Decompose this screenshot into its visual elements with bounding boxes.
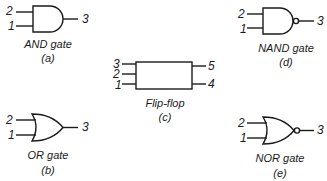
and-output-label: 3 xyxy=(82,13,89,25)
flipflop-output-5-label: 5 xyxy=(208,60,215,72)
and-gate-symbol xyxy=(16,6,78,32)
nand-gate-caption: NAND gate xyxy=(246,42,326,54)
or-output-label: 3 xyxy=(82,121,89,133)
nand-gate-symbol xyxy=(247,8,314,34)
flipflop-caption: Flip-flop xyxy=(125,97,205,109)
nor-gate-caption: NOR gate xyxy=(240,152,320,164)
or-gate-caption: OR gate xyxy=(8,149,88,161)
nor-input-1-label: 1 xyxy=(240,132,247,144)
nor-gate-figure-label: (e) xyxy=(240,167,320,179)
nor-output-label: 3 xyxy=(317,124,324,136)
and-gate-caption: AND gate xyxy=(8,38,88,50)
flipflop-figure-label: (c) xyxy=(125,111,205,123)
and-input-2-label: 2 xyxy=(6,5,13,17)
nand-input-2-label: 2 xyxy=(238,8,245,20)
flip-flop-symbol xyxy=(122,62,206,89)
nor-gate-symbol xyxy=(247,117,314,144)
flipflop-input-1-label: 1 xyxy=(115,79,122,91)
or-gate-symbol xyxy=(16,114,78,141)
or-input-1-label: 1 xyxy=(8,129,15,141)
and-gate-figure-label: (a) xyxy=(8,52,88,64)
nor-input-2-label: 2 xyxy=(238,117,245,129)
or-gate-figure-label: (b) xyxy=(8,164,88,176)
flipflop-output-4-label: 4 xyxy=(208,78,215,90)
or-input-2-label: 2 xyxy=(6,114,13,126)
and-input-1-label: 1 xyxy=(8,20,15,32)
nand-output-label: 3 xyxy=(317,15,324,27)
nand-gate-figure-label: (d) xyxy=(246,56,326,68)
nand-input-1-label: 1 xyxy=(240,23,247,35)
